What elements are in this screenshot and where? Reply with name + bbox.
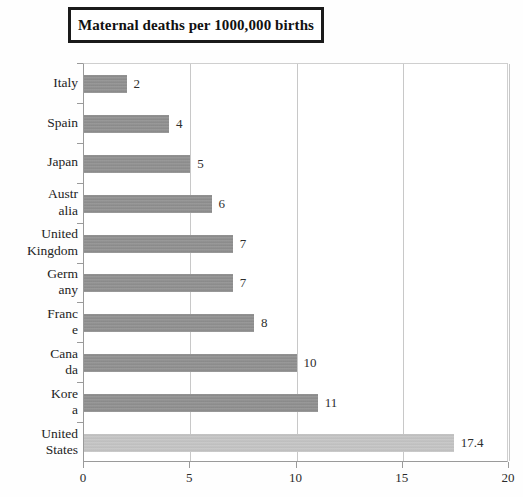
bar (84, 235, 233, 253)
category-label-line: a (72, 402, 78, 419)
y-axis-tick (77, 342, 83, 343)
bar (84, 75, 127, 93)
y-axis-tick (77, 143, 83, 144)
category-label-line: United (41, 426, 78, 443)
y-axis-tick (77, 183, 83, 184)
bar-value-label: 2 (134, 75, 141, 93)
category-label-line: United (41, 226, 78, 243)
category-label-line: States (46, 442, 78, 459)
x-axis-tick (296, 462, 297, 468)
category-label: France (0, 302, 78, 342)
plot-area: 2456778101117.4 (83, 63, 508, 462)
bar (84, 195, 212, 213)
x-axis-tick (189, 462, 190, 468)
bar (84, 115, 169, 133)
category-label: UnitedKingdom (0, 223, 78, 263)
bar-value-label: 7 (240, 235, 247, 253)
category-label-line: Austr (48, 186, 78, 203)
y-axis-tick (77, 263, 83, 264)
category-label-line: e (72, 322, 78, 339)
x-axis-tick (508, 462, 509, 468)
chart-title-box: Maternal deaths per 1000,000 births (68, 7, 324, 43)
x-axis-tick-label: 5 (169, 470, 209, 486)
category-label: Japan (0, 143, 78, 183)
category-label-line: alia (59, 203, 79, 220)
y-axis-tick (77, 103, 83, 104)
category-label: Australia (0, 183, 78, 223)
x-axis-tick-label: 0 (63, 470, 103, 486)
category-label-line: Cana (50, 346, 78, 363)
bar-value-label: 17.4 (461, 434, 484, 452)
category-label: Italy (0, 63, 78, 103)
chart-title: Maternal deaths per 1000,000 births (78, 17, 314, 34)
category-label-line: Spain (47, 115, 78, 132)
category-label: Spain (0, 103, 78, 143)
category-label-line: Japan (47, 154, 78, 171)
category-label-line: any (59, 282, 79, 299)
category-label: UnitedStates (0, 422, 78, 462)
x-axis-tick-label: 10 (276, 470, 316, 486)
y-axis-tick (77, 63, 83, 64)
bar-value-label: 7 (240, 274, 247, 292)
y-axis-tick (77, 422, 83, 423)
bar (84, 274, 233, 292)
bar (84, 434, 454, 452)
y-axis-tick (77, 223, 83, 224)
x-axis-tick (83, 462, 84, 468)
x-axis-tick-label: 15 (382, 470, 422, 486)
category-label-line: Franc (47, 306, 78, 323)
y-axis-tick (77, 302, 83, 303)
category-label: Korea (0, 382, 78, 422)
category-label-line: Kore (51, 386, 78, 403)
gridline-20 (509, 64, 510, 461)
bar-value-label: 6 (219, 195, 226, 213)
category-label-line: Italy (53, 75, 78, 92)
x-axis-tick-label: 20 (488, 470, 523, 486)
bar (84, 314, 254, 332)
bar-value-label: 8 (261, 314, 268, 332)
x-axis-tick (402, 462, 403, 468)
category-axis: ItalySpainJapanAustraliaUnitedKingdomGer… (0, 63, 78, 462)
bar-value-label: 11 (325, 394, 338, 412)
bar (84, 394, 318, 412)
category-label-line: Kingdom (27, 243, 78, 260)
category-label-line: da (65, 362, 78, 379)
bar (84, 354, 297, 372)
bar-value-label: 5 (197, 155, 204, 173)
gridline-15 (403, 64, 404, 461)
bar-chart: Maternal deaths per 1000,000 births Ital… (0, 0, 523, 497)
category-label: Germany (0, 263, 78, 303)
bar (84, 155, 190, 173)
bar-value-label: 4 (176, 115, 183, 133)
category-label-line: Germ (47, 266, 78, 283)
bar-value-label: 10 (304, 354, 317, 372)
category-label: Canada (0, 342, 78, 382)
y-axis-tick (77, 382, 83, 383)
